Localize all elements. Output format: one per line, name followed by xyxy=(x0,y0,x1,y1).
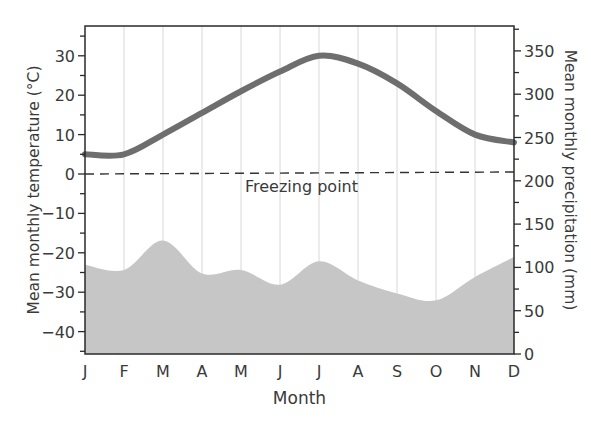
right-tick-label: 50 xyxy=(524,302,544,321)
month-label: M xyxy=(156,362,170,381)
temperature-line xyxy=(85,56,514,156)
left-axis-ticks: 3020100−10−20−30−40 xyxy=(41,36,85,351)
month-label: A xyxy=(353,362,364,381)
left-tick-label: −20 xyxy=(41,244,75,263)
right-axis-ticks: 350300250200150100500 xyxy=(514,29,555,364)
right-tick-label: 150 xyxy=(524,215,555,234)
x-axis-title: Month xyxy=(273,388,326,408)
left-tick-label: 10 xyxy=(55,126,75,145)
month-label: J xyxy=(277,362,283,381)
freezing-point-line xyxy=(85,172,514,174)
right-tick-label: 300 xyxy=(524,85,555,104)
month-label: J xyxy=(316,362,322,381)
month-label: J xyxy=(82,362,88,381)
x-axis-labels: JFMAMJJASOND xyxy=(82,362,521,381)
right-tick-label: 0 xyxy=(524,345,534,364)
freezing-point-label: Freezing point xyxy=(245,177,358,196)
month-label: F xyxy=(119,362,128,381)
left-axis-title: Mean monthly temperature (°C) xyxy=(25,66,43,315)
month-label: O xyxy=(430,362,443,381)
left-tick-label: 30 xyxy=(55,47,75,66)
right-tick-label: 350 xyxy=(524,42,555,61)
month-label: N xyxy=(469,362,481,381)
left-tick-label: 20 xyxy=(55,86,75,105)
left-tick-label: −40 xyxy=(41,323,75,342)
right-tick-label: 100 xyxy=(524,258,555,277)
climate-chart: Freezing point 3020100−10−20−30−40 35030… xyxy=(0,0,591,432)
left-tick-label: −30 xyxy=(41,283,75,302)
left-tick-label: −10 xyxy=(41,204,75,223)
precipitation-area xyxy=(85,241,514,354)
right-tick-label: 200 xyxy=(524,172,555,191)
month-label: M xyxy=(234,362,248,381)
left-tick-label: 0 xyxy=(65,165,75,184)
month-label: D xyxy=(508,362,520,381)
right-tick-label: 250 xyxy=(524,129,555,148)
month-label: A xyxy=(197,362,208,381)
month-label: S xyxy=(392,362,402,381)
right-axis-title: Mean monthly precipitation (mm) xyxy=(561,50,579,311)
